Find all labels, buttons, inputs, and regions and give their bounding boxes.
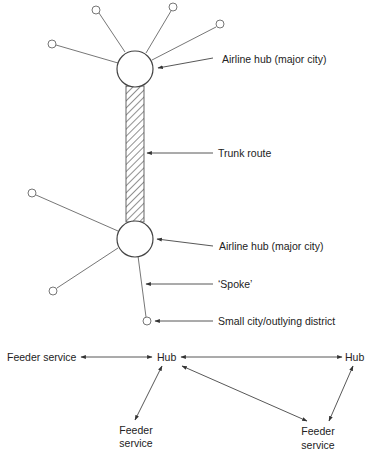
annotation-arrows [146,58,213,321]
small-city-node [92,6,100,14]
small-city-node [216,20,224,28]
label-feeder-bottom-left-line2: service [116,437,156,449]
airline-hub-top [117,51,153,87]
top-small-cities [48,3,224,48]
label-airline-hub-bottom: Airline hub (major city) [219,240,323,252]
small-city-node [49,287,57,295]
small-city-node [28,189,36,197]
small-city-node [48,40,56,48]
label-spoke: ‘Spoke’ [218,278,252,290]
small-city-node [169,3,177,11]
label-small-city: Small city/outlying district [218,315,335,327]
label-hub-right: Hub [345,351,364,363]
hub-spoke-diagram [0,0,366,451]
trunk-route [126,86,144,222]
small-city-node [143,317,151,325]
label-trunk-route: Trunk route [218,147,271,159]
label-hub-center: Hub [157,351,176,363]
label-feeder-bottom-left-line1: Feeder [116,424,156,436]
label-feeder-bottom-right-line2: service [298,439,338,451]
label-feeder-bottom-right-line1: Feeder [298,425,338,437]
label-feeder-service-left: Feeder service [7,351,76,363]
flow-arrows [81,357,353,421]
label-airline-hub-top: Airline hub (major city) [222,53,326,65]
airline-hub-bottom [117,221,153,257]
